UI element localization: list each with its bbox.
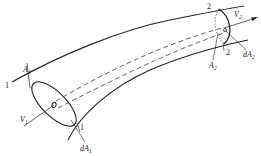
velocity-2-arrowhead xyxy=(251,17,258,21)
label-section-2-bottom: 2 xyxy=(226,48,230,57)
stream-tube-diagram: 1 1 2 2 A1 A2 V1 V2 dA1 dA2 xyxy=(0,0,261,156)
label-section-2-top: 2 xyxy=(207,2,211,11)
A2-leader xyxy=(213,33,218,60)
label-velocity-2: V2 xyxy=(234,10,242,20)
label-elem-area-1: dA1 xyxy=(80,144,92,154)
section-2-hidden-arc xyxy=(215,9,224,44)
tube-upper-wall xyxy=(12,6,244,82)
section-1-ellipse xyxy=(25,75,83,133)
streamtube-dashed-upper xyxy=(56,28,222,101)
label-area-2: A2 xyxy=(208,61,217,71)
tube-lower-wall xyxy=(68,40,248,140)
label-section-1-bottom: 1 xyxy=(80,123,84,132)
label-velocity-1: V1 xyxy=(20,115,28,125)
streamtube-dashed-lower xyxy=(58,33,224,108)
label-area-1: A1 xyxy=(22,65,31,75)
label-elem-area-2: dA2 xyxy=(243,50,255,60)
label-section-1-top: 1 xyxy=(5,81,9,90)
